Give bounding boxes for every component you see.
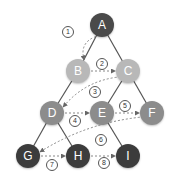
node-A: A — [90, 13, 114, 37]
node-I: I — [116, 144, 140, 168]
step-label-7: 7 — [46, 159, 58, 171]
bfs-tree-diagram: ABCDEFGHI 12345678 — [0, 0, 178, 183]
step-label-3: 3 — [89, 86, 101, 98]
node-G: G — [16, 144, 40, 168]
step-label-1: 1 — [62, 26, 74, 38]
step-label-6: 6 — [95, 134, 107, 146]
step-label-5: 5 — [119, 100, 131, 112]
step-label-2: 2 — [96, 58, 108, 70]
node-C: C — [116, 59, 140, 83]
node-H: H — [66, 144, 90, 168]
node-B: B — [66, 59, 90, 83]
node-D: D — [40, 101, 64, 125]
node-F: F — [140, 101, 164, 125]
node-E: E — [90, 101, 114, 125]
step-label-8: 8 — [98, 157, 110, 169]
step-label-4: 4 — [69, 115, 81, 127]
